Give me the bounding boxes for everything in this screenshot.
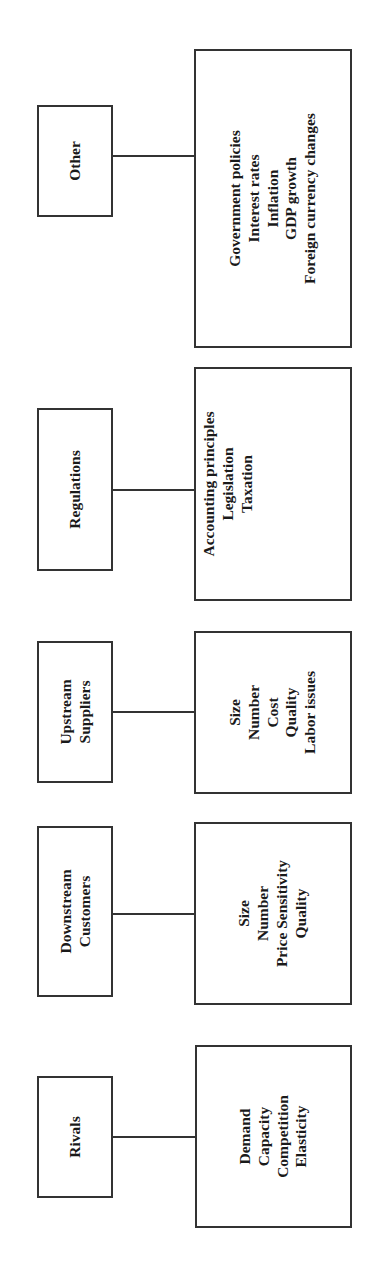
factor-item: Legislation [219,447,238,520]
factor-item: Taxation [238,455,257,513]
factor-item: Competition [274,1095,293,1178]
category-title: Upstream [56,679,75,744]
factor-item: Demand [236,1109,255,1165]
factor-item: Foreign currency changes [301,113,320,284]
category-box-upstream-suppliers: Upstream Suppliers [37,641,113,783]
factor-item: GDP growth [282,157,301,240]
factor-item: Inflation [264,170,283,228]
factor-item: Government policies [226,130,245,266]
factor-item: Number [245,685,264,740]
factor-box-upstream-suppliers: Size Number Cost Quality Labor issues [194,631,352,794]
category-box-other: Other [37,105,113,217]
category-title: Other [65,141,84,181]
factor-item: Elasticity [292,1106,311,1168]
factor-item: Number [254,886,273,941]
category-box-rivals: Rivals [37,1076,113,1198]
factor-box-downstream-customers: Size Number Price Sensitivity Quality [194,822,352,1005]
factor-item: Quality [292,889,311,939]
connector-line-downstream-customers [113,913,195,915]
category-title: Suppliers [75,681,94,744]
connector-line-upstream-suppliers [113,711,194,713]
factor-item: Size [235,900,254,927]
connector-line-regulations [113,489,194,491]
category-title: Rivals [65,1116,84,1157]
category-title: Downstream [56,869,75,953]
environment-factors-diagram: Rivals Demand Capacity Competition Elast… [0,0,372,1273]
factor-item: Cost [264,697,283,727]
factor-item: Size [226,699,245,726]
category-title: Customers [75,876,94,947]
factor-box-other: Government policies Interest rates Infla… [194,49,352,348]
connector-line-rivals [113,1136,195,1138]
factor-item: Quality [282,688,301,738]
category-box-downstream-customers: Downstream Customers [37,826,113,997]
factor-item: Interest rates [245,155,264,243]
factor-box-regulations: Accounting principles Legislation Taxati… [194,367,352,601]
factor-box-rivals: Demand Capacity Competition Elasticity [195,1045,352,1228]
connector-line-other [113,155,194,157]
factor-item: Labor issues [301,671,320,754]
factor-item: Capacity [255,1107,274,1166]
factor-item: Accounting principles [200,411,219,556]
category-box-regulations: Regulations [37,408,113,571]
factor-item: Price Sensitivity [273,860,292,967]
category-title: Regulations [65,450,84,528]
